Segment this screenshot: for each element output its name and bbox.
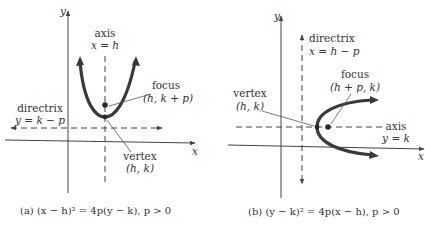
y-axis-label-a: y	[59, 5, 67, 17]
focus-point-a	[102, 102, 108, 108]
axis-equation-a: x = h	[91, 39, 119, 51]
directrix-equation-b: x = h − p	[309, 45, 360, 57]
directrix-label-b: directrix	[309, 32, 355, 44]
focus-label-a: focus	[152, 79, 180, 91]
parabola-diagrams: y x axis x = h directrix y = k − p focus…	[0, 0, 425, 225]
vertex-point-a	[103, 115, 108, 120]
figure-b: y x directrix x = h − p axis y = k focus…	[228, 10, 424, 217]
vertex-label-a: vertex	[122, 150, 157, 162]
axis-equation-b: y = k	[381, 132, 410, 144]
curve-arrow-left-a	[76, 56, 84, 66]
focus-coords-b: (h + p, k)	[330, 81, 380, 93]
focus-label-b: focus	[341, 68, 369, 80]
caption-a: (a) (x − h)² = 4p(y − k), p > 0	[20, 205, 171, 216]
focus-point-b	[325, 124, 331, 130]
curve-arrow-top-b	[370, 96, 379, 104]
y-axis-label-b: y	[273, 10, 281, 22]
directrix-label-a: directrix	[17, 102, 63, 114]
figure-a: y x axis x = h directrix y = k − p focus…	[5, 5, 198, 216]
x-axis-a	[5, 140, 195, 143]
parabola-curve-a	[80, 62, 135, 117]
axis-label-b: axis	[386, 120, 407, 132]
vertex-coords-b: (h, k)	[236, 100, 264, 112]
vertex-coords-a: (h, k)	[126, 162, 154, 174]
vertex-leader-a	[107, 120, 131, 152]
axis-label-a: axis	[95, 27, 116, 39]
x-axis-label-a: x	[192, 145, 198, 157]
focus-coords-a: (h, k + p)	[143, 92, 193, 104]
vertex-point-b	[315, 125, 320, 130]
directrix-equation-a: y = k − p	[14, 114, 65, 126]
caption-b: (b) (y − k)² = 4p(x − h), p > 0	[248, 206, 400, 217]
curve-arrow-right-a	[132, 56, 140, 66]
vertex-leader-b	[262, 111, 314, 126]
x-axis-label-b: x	[418, 150, 424, 162]
curve-arrow-bottom-b	[369, 151, 379, 159]
x-axis-b	[228, 145, 424, 149]
vertex-label-b: vertex	[232, 87, 267, 99]
